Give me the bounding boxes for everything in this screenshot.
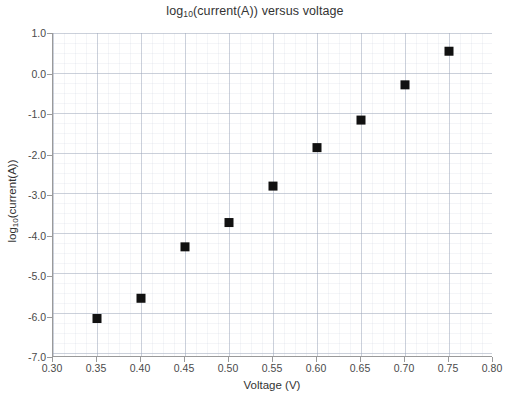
x-axis-tick-label: 0.70 — [379, 362, 429, 374]
y-axis-tick-mark — [47, 276, 52, 277]
data-point — [401, 80, 410, 89]
y-axis-tick-label: -1.0 — [8, 108, 46, 120]
data-point — [269, 182, 278, 191]
x-axis-tick-mark — [52, 357, 53, 362]
data-point — [313, 143, 322, 152]
x-axis-tick-mark — [448, 357, 449, 362]
y-axis-tick-label: -5.0 — [8, 270, 46, 282]
y-axis-tick-mark — [47, 317, 52, 318]
x-axis-tick-label: 0.35 — [71, 362, 121, 374]
y-axis-tick-label: 0.0 — [8, 68, 46, 80]
y-axis-title-subscript: 10 — [11, 218, 20, 227]
y-axis-tick-mark — [47, 236, 52, 237]
x-axis-tick-mark — [140, 357, 141, 362]
y-axis-tick-mark — [47, 195, 52, 196]
chart-title-text-post: (current(A)) versus voltage — [193, 4, 344, 18]
x-axis-tick-mark — [272, 357, 273, 362]
chart-title: log10(current(A)) versus voltage — [0, 4, 510, 18]
chart-container: log10(current(A)) versus voltage 1.00.0-… — [0, 0, 510, 398]
data-point — [181, 242, 190, 251]
data-point — [357, 116, 366, 125]
x-axis-tick-mark — [492, 357, 493, 362]
y-axis-tick-mark — [47, 33, 52, 34]
y-axis-tick-mark — [47, 155, 52, 156]
x-axis-tick-label: 0.75 — [423, 362, 473, 374]
y-axis-tick-label: -6.0 — [8, 311, 46, 323]
data-point — [225, 218, 234, 227]
x-axis-tick-mark — [184, 357, 185, 362]
x-axis-tick-label: 0.45 — [159, 362, 209, 374]
y-axis-title: log10(current(A)) — [6, 141, 18, 261]
x-axis-tick-mark — [360, 357, 361, 362]
chart-title-subscript: 10 — [183, 9, 193, 19]
x-axis-tick-label: 0.80 — [467, 362, 510, 374]
x-axis-tick-label: 0.55 — [247, 362, 297, 374]
data-point — [445, 47, 454, 56]
y-axis-tick-mark — [47, 114, 52, 115]
x-axis-tick-label: 0.60 — [291, 362, 341, 374]
x-axis-tick-mark — [228, 357, 229, 362]
data-point — [137, 294, 146, 303]
x-axis-tick-label: 0.50 — [203, 362, 253, 374]
data-points-layer — [53, 33, 493, 357]
y-axis-title-pre: log — [6, 227, 18, 242]
chart-title-text-pre: log — [166, 4, 183, 18]
data-point — [93, 314, 102, 323]
x-axis-tick-mark — [96, 357, 97, 362]
y-axis-title-post: (current(A)) — [6, 159, 18, 218]
x-axis-title: Voltage (V) — [52, 379, 492, 391]
x-axis-tick-label: 0.40 — [115, 362, 165, 374]
plot-area — [52, 33, 492, 357]
y-axis-tick-mark — [47, 74, 52, 75]
x-axis-tick-label: 0.65 — [335, 362, 385, 374]
x-axis-tick-mark — [404, 357, 405, 362]
x-axis-tick-mark — [316, 357, 317, 362]
x-axis-tick-label: 0.30 — [27, 362, 77, 374]
y-axis-tick-label: 1.0 — [8, 27, 46, 39]
